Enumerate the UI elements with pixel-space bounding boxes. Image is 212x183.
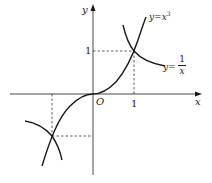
reciprocal-label-numerator: 1	[178, 55, 186, 64]
origin-label: O	[96, 97, 104, 107]
reciprocal-label-denominator: x	[178, 67, 186, 76]
cubic-label-prefix: y=	[149, 12, 162, 22]
y-tick-label-1: 1	[85, 46, 91, 56]
x-axis-label: x	[195, 97, 201, 107]
cubic-curve-label: y=x3	[149, 11, 171, 22]
y-axis-arrow-icon	[91, 4, 96, 11]
cubic-label-exponent: 3	[167, 10, 171, 17]
reciprocal-label-prefix: y=	[163, 63, 176, 72]
y-axis-label: y	[82, 5, 88, 15]
x-tick-label-1: 1	[131, 99, 137, 109]
graph-canvas	[0, 0, 212, 183]
cubic-curve	[42, 17, 146, 166]
